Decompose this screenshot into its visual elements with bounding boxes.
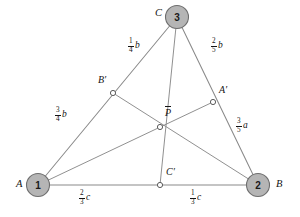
segment-variable: c — [86, 193, 90, 203]
point-label-P: P — [165, 106, 171, 118]
fraction-3-5: 3 5 — [236, 118, 242, 134]
vertex-node-C-number: 3 — [174, 12, 180, 23]
point-label-Aprime: A′ — [219, 85, 227, 95]
vertex-node-A-number: 1 — [35, 180, 41, 191]
fraction-numerator: 1 — [128, 38, 134, 46]
segment-variable: b — [135, 41, 140, 51]
fraction-numerator: 1 — [190, 190, 196, 198]
fraction-denominator: 5 — [236, 126, 242, 135]
segment-label-A-Cprime: 2 3 c — [79, 190, 90, 206]
fraction-denominator: 4 — [55, 115, 61, 124]
fraction-numerator: 3 — [236, 118, 242, 126]
marker-Cprime — [157, 182, 162, 187]
segment-label-Bprime-A: 3 4 b — [55, 107, 67, 123]
marker-Bprime — [110, 90, 115, 95]
point-label-Cprime: C′ — [166, 167, 175, 177]
fraction-2-3: 2 3 — [79, 190, 85, 206]
cevian-C-Cprime — [160, 17, 177, 185]
point-label-Bprime: B′ — [98, 75, 106, 85]
side-AC — [38, 17, 177, 185]
segment-variable: a — [243, 121, 248, 131]
segment-label-C-Aprime: 2 5 b — [211, 38, 223, 54]
fraction-numerator: 2 — [79, 190, 85, 198]
fraction-denominator: 3 — [79, 198, 85, 207]
segment-label-Aprime-B: 3 5 a — [236, 118, 248, 134]
segment-label-C-Bprime: 1 4 b — [128, 38, 140, 54]
fraction-2-5: 2 5 — [211, 38, 217, 54]
marker-P — [157, 124, 162, 129]
segment-variable: c — [197, 193, 201, 203]
fraction-3-4: 3 4 — [55, 107, 61, 123]
diagram-canvas: 1 2 3 A B C B′ A′ C′ P 1 4 b 3 4 b 2 5 — [0, 0, 300, 217]
fraction-denominator: 3 — [190, 198, 196, 207]
fraction-denominator: 5 — [211, 46, 217, 55]
fraction-numerator: 3 — [55, 107, 61, 115]
point-markers — [110, 90, 215, 187]
fraction-1-3: 1 3 — [190, 190, 196, 206]
vertex-node-B-number: 2 — [255, 180, 261, 191]
fraction-denominator: 4 — [128, 46, 134, 55]
point-label-P-text: P — [165, 106, 171, 118]
fraction-numerator: 2 — [211, 38, 217, 46]
vertex-label-B: B — [276, 179, 282, 190]
vertex-label-A: A — [16, 179, 22, 190]
cevian-lines — [38, 17, 258, 185]
vertex-label-C: C — [155, 8, 162, 19]
marker-Aprime — [210, 99, 215, 104]
fraction-1-4: 1 4 — [128, 38, 134, 54]
vertex-nodes: 1 2 3 — [27, 6, 270, 197]
segment-variable: b — [218, 41, 223, 51]
segment-label-Cprime-B: 1 3 c — [190, 190, 201, 206]
triangle-sides — [38, 17, 258, 185]
segment-variable: b — [62, 110, 67, 120]
geometry-figure: 1 2 3 — [0, 0, 300, 217]
